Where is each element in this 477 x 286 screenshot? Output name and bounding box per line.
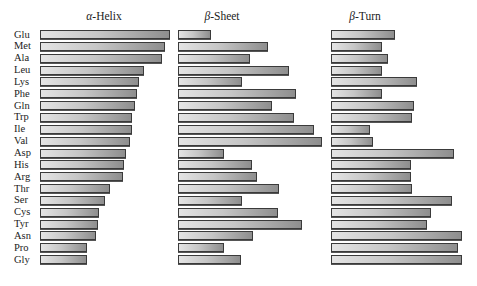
bar-gly xyxy=(40,255,87,264)
bar-ser xyxy=(178,196,242,205)
bar-arg xyxy=(178,172,257,181)
bar-asp xyxy=(178,149,224,158)
bar-met xyxy=(40,42,165,51)
bar-his xyxy=(40,160,124,169)
bar-gly xyxy=(178,255,241,264)
bar-leu xyxy=(40,66,144,75)
bar-leu xyxy=(331,66,382,75)
bar-phe xyxy=(331,89,382,98)
bar-his xyxy=(331,160,411,169)
bar-ala xyxy=(331,54,388,63)
amino-acid-label: Met xyxy=(14,40,31,52)
panel-title: α-Helix xyxy=(86,10,121,22)
panel-title-text: -Helix xyxy=(92,10,121,22)
bar-met xyxy=(178,42,268,51)
bar-trp xyxy=(40,113,132,122)
amino-acid-label: Ser xyxy=(14,194,28,206)
bar-asn xyxy=(40,231,96,240)
amino-acid-label: Gly xyxy=(14,254,30,266)
bar-cys xyxy=(331,208,431,217)
amino-acid-label: Ile xyxy=(14,123,25,135)
bar-lys xyxy=(40,77,139,86)
amino-acid-label: Thr xyxy=(14,183,29,195)
bar-gly xyxy=(331,255,462,264)
amino-acid-label: Leu xyxy=(14,64,30,76)
bar-trp xyxy=(331,113,412,122)
bar-ala xyxy=(178,54,250,63)
amino-acid-label: Val xyxy=(14,135,28,147)
amino-acid-label: Tyr xyxy=(14,218,28,230)
bar-tyr xyxy=(40,220,98,229)
panel-title: β-Turn xyxy=(349,10,381,22)
amino-acid-label: Phe xyxy=(14,88,30,100)
bar-thr xyxy=(331,184,412,193)
bar-phe xyxy=(178,89,296,98)
bar-gln xyxy=(40,101,135,110)
bar-ser xyxy=(331,196,452,205)
amino-acid-label: Ala xyxy=(14,52,29,64)
bar-asn xyxy=(331,231,462,240)
amino-acid-label: Cys xyxy=(14,206,30,218)
bar-ile xyxy=(40,125,132,134)
amino-acid-label: Glu xyxy=(14,29,30,41)
bar-tyr xyxy=(331,220,427,229)
bar-val xyxy=(178,137,322,146)
bar-gln xyxy=(331,101,414,110)
panel-title: β-Sheet xyxy=(204,10,239,22)
bar-pro xyxy=(178,243,224,252)
bar-tyr xyxy=(178,220,302,229)
bar-cys xyxy=(40,208,99,217)
bar-trp xyxy=(178,113,294,122)
bar-arg xyxy=(40,172,123,181)
bar-ala xyxy=(40,54,162,63)
bar-thr xyxy=(178,184,279,193)
bar-asn xyxy=(178,231,253,240)
bar-pro xyxy=(331,243,458,252)
amino-acid-label: Asn xyxy=(14,230,31,242)
bar-asp xyxy=(331,149,454,158)
bar-ser xyxy=(40,196,105,205)
bar-asp xyxy=(40,149,126,158)
bar-ile xyxy=(331,125,370,134)
bar-pro xyxy=(40,243,87,252)
bar-cys xyxy=(178,208,278,217)
bar-thr xyxy=(40,184,110,193)
bar-val xyxy=(40,137,130,146)
amino-acid-label: Pro xyxy=(14,242,29,254)
bar-lys xyxy=(331,77,417,86)
bar-ile xyxy=(178,125,314,134)
amino-acid-label: Gln xyxy=(14,100,30,112)
amino-acid-label: His xyxy=(14,159,29,171)
bar-lys xyxy=(178,77,242,86)
bar-glu xyxy=(331,30,395,39)
amino-acid-label: Trp xyxy=(14,111,29,123)
bar-leu xyxy=(178,66,289,75)
amino-acid-label: Lys xyxy=(14,76,29,88)
bar-met xyxy=(331,42,382,51)
bar-glu xyxy=(178,30,211,39)
panel-title-text: -Sheet xyxy=(210,10,239,22)
bar-val xyxy=(331,137,373,146)
bar-arg xyxy=(331,172,411,181)
bar-glu xyxy=(40,30,170,39)
bar-his xyxy=(178,160,252,169)
amino-acid-label: Arg xyxy=(14,171,30,183)
panel-title-text: -Turn xyxy=(355,10,381,22)
bar-phe xyxy=(40,89,137,98)
bar-gln xyxy=(178,101,272,110)
amino-acid-label: Asp xyxy=(14,147,31,159)
